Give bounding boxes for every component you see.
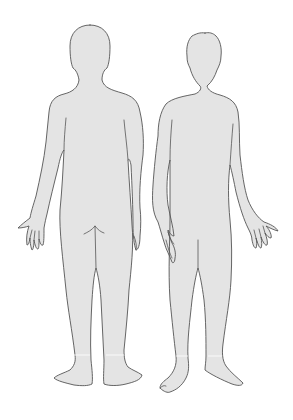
body-chart-canvas: Back view Front view: [0, 0, 293, 420]
back-view-figure: [18, 25, 143, 386]
front-view-figure: [153, 33, 278, 393]
front-view-silhouette: [153, 33, 278, 393]
body-figures: [0, 0, 293, 420]
back-view-silhouette: [18, 25, 143, 386]
